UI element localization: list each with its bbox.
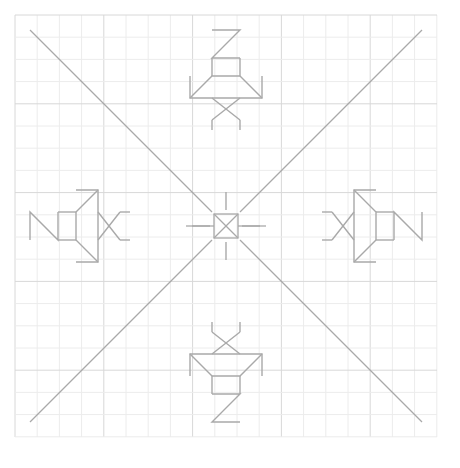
diagram-svg	[0, 0, 460, 468]
main-diagonal	[30, 30, 212, 212]
skeleton-path	[190, 354, 212, 376]
main-diagonals	[30, 30, 422, 422]
skeleton-arm	[190, 242, 262, 422]
skeleton-path	[212, 394, 240, 422]
skeleton-arm	[190, 30, 262, 210]
skeleton-path	[76, 190, 98, 212]
skeleton-arm	[30, 190, 210, 262]
skeleton-path	[394, 212, 422, 240]
skeleton-path	[30, 212, 58, 240]
main-diagonal	[240, 30, 422, 212]
skeleton-path	[212, 30, 240, 58]
main-diagonal	[30, 240, 212, 422]
skeleton-arm	[242, 190, 422, 262]
figure-canvas	[0, 0, 460, 468]
main-diagonal	[240, 240, 422, 422]
